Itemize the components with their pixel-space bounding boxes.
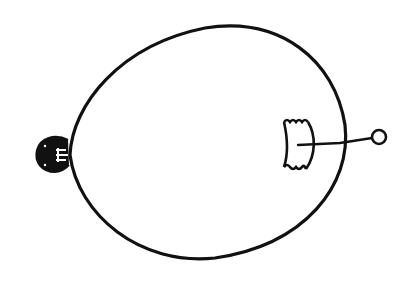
sketch-canvas xyxy=(0,0,415,281)
balloon-outline xyxy=(70,26,346,259)
string-line xyxy=(298,138,372,145)
balloon-sketch xyxy=(0,0,415,281)
ring-icon xyxy=(372,130,386,144)
knot-icon xyxy=(36,137,69,172)
